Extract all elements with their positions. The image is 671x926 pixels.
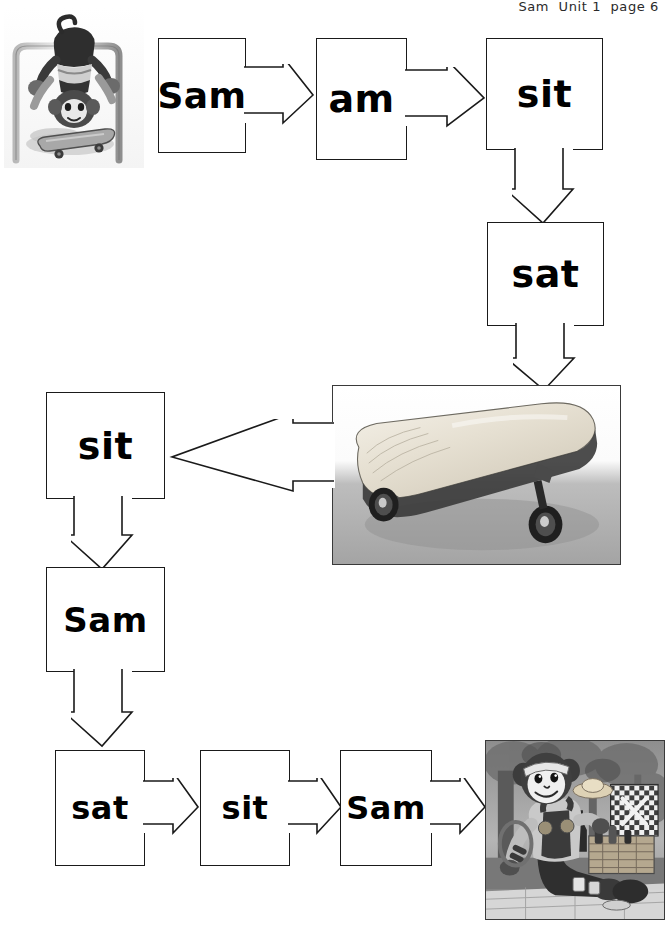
arrow-sat2-to-sit3 xyxy=(142,778,200,836)
arrow-sit3-to-sam3 xyxy=(287,778,343,836)
word-card-sit-1[interactable]: sit xyxy=(486,38,603,150)
arrow-sam1-to-am xyxy=(243,64,315,126)
arrow-photo-to-sit2 xyxy=(169,419,335,495)
word-card-sam-1[interactable]: Sam xyxy=(158,38,246,153)
word-text: am xyxy=(328,80,394,118)
word-text: sat xyxy=(512,255,580,293)
word-card-sat-1[interactable]: sat xyxy=(487,222,604,326)
word-text: sat xyxy=(71,792,128,824)
photo-skateboard xyxy=(332,385,621,565)
page-header: Sam Unit 1 page 6 xyxy=(518,0,659,14)
arrow-sit2-to-sam2 xyxy=(71,495,135,571)
skateboard-photo xyxy=(333,386,620,564)
word-text: sit xyxy=(517,75,572,113)
word-text: sit xyxy=(78,427,133,465)
word-card-sam-2[interactable]: Sam xyxy=(46,567,165,672)
word-card-sat-2[interactable]: sat xyxy=(55,750,145,866)
word-card-am[interactable]: am xyxy=(316,38,407,160)
word-card-sit-3[interactable]: sit xyxy=(200,750,290,866)
arrow-sam2-to-sat2 xyxy=(71,668,135,748)
arrow-am-to-sit1 xyxy=(404,67,486,129)
word-text: Sam xyxy=(346,792,425,824)
word-card-sam-3[interactable]: Sam xyxy=(340,750,432,866)
arrow-sam3-to-photo xyxy=(429,778,487,836)
arrow-sit1-to-sat1 xyxy=(512,147,576,225)
word-text: Sam xyxy=(63,603,147,637)
word-text: Sam xyxy=(157,78,246,114)
arrow-sat1-to-photo xyxy=(513,322,577,392)
photo-monkey-railing xyxy=(4,8,144,168)
picnic-monkey-illustration xyxy=(486,741,664,919)
photo-picnic xyxy=(485,740,665,920)
monkey-railing-illustration xyxy=(4,8,144,168)
word-text: sit xyxy=(222,792,269,824)
worksheet-page: Sam Unit 1 page 6 xyxy=(0,0,671,926)
word-card-sit-2[interactable]: sit xyxy=(46,392,165,499)
